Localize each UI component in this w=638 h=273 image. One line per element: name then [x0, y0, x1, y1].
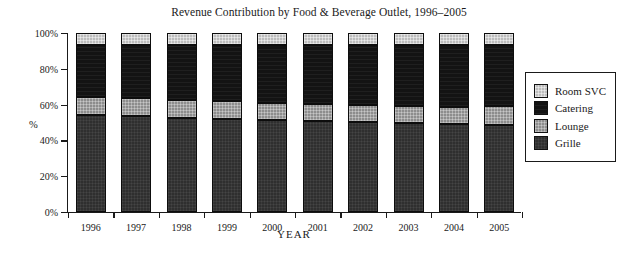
bar-segment-room-svc[interactable] [348, 33, 378, 45]
bar-segment-lounge[interactable] [303, 104, 333, 121]
y-axis-tick [61, 212, 67, 213]
stacked-bar[interactable] [484, 33, 514, 212]
legend-item[interactable]: Lounge [534, 119, 606, 133]
legend-swatch-icon [534, 136, 548, 150]
bar-segment-catering[interactable] [212, 45, 242, 101]
y-axis-line [67, 33, 68, 212]
bar-segment-lounge[interactable] [257, 103, 287, 120]
bar-segment-room-svc[interactable] [439, 33, 469, 45]
bar-segment-grille[interactable] [348, 122, 378, 212]
bar-segment-grille[interactable] [212, 119, 242, 212]
bar-segment-catering[interactable] [348, 45, 378, 105]
legend-item[interactable]: Catering [534, 101, 606, 115]
bar-segment-lounge[interactable] [76, 97, 106, 115]
x-axis-tick [68, 212, 69, 218]
x-axis-tick [522, 212, 523, 218]
stacked-bar[interactable] [439, 33, 469, 212]
y-axis-tick [61, 33, 67, 34]
stacked-bar[interactable] [348, 33, 378, 212]
bar-segment-lounge[interactable] [484, 106, 514, 125]
bar-segment-grille[interactable] [121, 116, 151, 212]
y-axis-tick [61, 69, 67, 70]
bar-segment-room-svc[interactable] [394, 33, 424, 45]
bar-segment-room-svc[interactable] [212, 33, 242, 45]
stacked-bar[interactable] [76, 33, 106, 212]
y-axis-title: % [29, 119, 38, 130]
stacked-bar[interactable] [257, 33, 287, 212]
bar-segment-catering[interactable] [121, 45, 151, 98]
chart-legend: Room SVCCateringLoungeGrille [525, 72, 616, 162]
y-axis-tick [61, 105, 67, 106]
bar-segment-grille[interactable] [167, 118, 197, 212]
y-axis-tick-label: 100% [35, 28, 58, 39]
legend-label: Room SVC [555, 85, 606, 97]
x-axis-tick [204, 212, 205, 218]
y-axis-tick-label: 0% [45, 207, 58, 218]
bar-segment-lounge[interactable] [439, 107, 469, 124]
bar-segment-lounge[interactable] [121, 98, 151, 116]
x-axis-tick [113, 212, 114, 218]
legend-swatch-icon [534, 119, 548, 133]
bar-segment-catering[interactable] [484, 45, 514, 106]
stacked-bar[interactable] [121, 33, 151, 212]
bar-segment-grille[interactable] [257, 120, 287, 212]
bar-segment-grille[interactable] [484, 125, 514, 212]
y-axis-tick [61, 176, 67, 177]
bar-segment-room-svc[interactable] [121, 33, 151, 45]
x-axis-line [67, 212, 521, 213]
bar-segment-room-svc[interactable] [303, 33, 333, 45]
stacked-bar[interactable] [394, 33, 424, 212]
bar-segment-catering[interactable] [439, 45, 469, 107]
y-axis-tick-label: 20% [40, 171, 58, 182]
bar-segment-room-svc[interactable] [167, 33, 197, 45]
y-axis-tick [61, 140, 67, 141]
bar-segment-grille[interactable] [76, 115, 106, 212]
x-axis-tick [159, 212, 160, 218]
bar-segment-catering[interactable] [394, 45, 424, 106]
bar-segment-lounge[interactable] [394, 106, 424, 123]
bar-segment-catering[interactable] [303, 45, 333, 104]
bar-segment-lounge[interactable] [212, 101, 242, 119]
x-axis-tick [477, 212, 478, 218]
x-axis-tick [340, 212, 341, 218]
stacked-bar[interactable] [303, 33, 333, 212]
stacked-bar[interactable] [212, 33, 242, 212]
x-axis-tick [250, 212, 251, 218]
x-axis-tick [431, 212, 432, 218]
y-axis-tick-label: 80% [40, 63, 58, 74]
legend-item[interactable]: Room SVC [534, 84, 606, 98]
bar-segment-catering[interactable] [76, 45, 106, 97]
x-axis-tick [295, 212, 296, 218]
bar-segment-lounge[interactable] [348, 105, 378, 122]
y-axis-tick-label: 60% [40, 99, 58, 110]
bar-segment-room-svc[interactable] [484, 33, 514, 45]
bar-segment-room-svc[interactable] [76, 33, 106, 45]
legend-label: Grille [555, 137, 581, 149]
x-axis-tick [386, 212, 387, 218]
legend-swatch-icon [534, 101, 548, 115]
plot-area: 0%20%40%60%80%100% 199619971998199920002… [67, 33, 521, 212]
bar-segment-grille[interactable] [394, 123, 424, 212]
stacked-bar[interactable] [167, 33, 197, 212]
bar-segment-catering[interactable] [167, 45, 197, 100]
chart-title: Revenue Contribution by Food & Beverage … [0, 6, 638, 18]
bar-segment-catering[interactable] [257, 45, 287, 103]
chart-container: Revenue Contribution by Food & Beverage … [0, 0, 638, 273]
bar-segment-grille[interactable] [303, 121, 333, 212]
legend-label: Catering [555, 102, 593, 114]
legend-item[interactable]: Grille [534, 136, 606, 150]
x-axis-title: YEAR [67, 228, 521, 240]
bar-segment-lounge[interactable] [167, 100, 197, 118]
bar-segment-grille[interactable] [439, 124, 469, 212]
legend-label: Lounge [555, 120, 589, 132]
y-axis-tick-label: 40% [40, 135, 58, 146]
legend-swatch-icon [534, 84, 548, 98]
bar-segment-room-svc[interactable] [257, 33, 287, 45]
